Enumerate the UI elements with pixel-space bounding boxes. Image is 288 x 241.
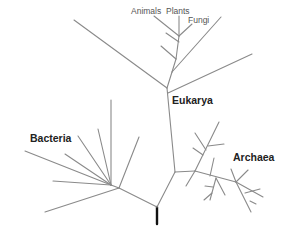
label-eukarya: Eukarya (172, 94, 213, 106)
label-fungi: Fungi (188, 15, 209, 25)
phylogenetic-tree: Animals Plants Fungi Eukarya Bacteria Ar… (0, 0, 288, 241)
label-archaea: Archaea (233, 151, 275, 163)
eukarya-clade (74, 16, 252, 172)
label-bacteria: Bacteria (30, 132, 72, 144)
label-animals: Animals (131, 6, 161, 16)
root-fork (119, 172, 175, 207)
bacteria-clade (25, 100, 139, 212)
label-plants: Plants (166, 6, 190, 16)
archaea-clade (175, 122, 263, 212)
